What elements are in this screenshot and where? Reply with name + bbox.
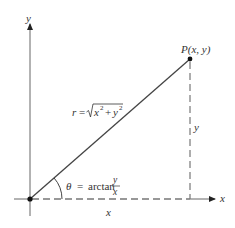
radius-formula: r = x 2 + y 2 bbox=[72, 104, 123, 118]
radius-line bbox=[30, 59, 190, 199]
angle-arc bbox=[54, 178, 62, 199]
radicand-x: x bbox=[93, 106, 99, 118]
radicand-y-exp: 2 bbox=[119, 104, 123, 112]
radicand-y: y bbox=[112, 106, 118, 118]
radius-lhs: r bbox=[72, 106, 77, 118]
vertical-leg-label: y bbox=[193, 121, 199, 133]
horizontal-leg-label: x bbox=[105, 206, 111, 218]
polar-coordinate-diagram: y x P(x, y) y x r = x 2 + y 2 θ = arctan… bbox=[0, 0, 235, 228]
angle-eq: = bbox=[77, 180, 83, 192]
arctan-func: arctan bbox=[88, 180, 115, 192]
radicand-plus: + bbox=[105, 106, 111, 118]
point-p-label: P(x, y) bbox=[180, 43, 211, 56]
fraction-numerator: y bbox=[112, 175, 118, 185]
theta-symbol: θ bbox=[66, 180, 72, 192]
fraction-denominator: x bbox=[112, 187, 118, 197]
radicand-x-exp: 2 bbox=[100, 104, 104, 112]
angle-formula: θ = arctan y x bbox=[66, 175, 120, 197]
point-p bbox=[188, 57, 193, 62]
radius-eq: = bbox=[79, 106, 85, 118]
origin-point bbox=[27, 196, 32, 201]
y-axis-label: y bbox=[25, 12, 31, 24]
x-axis-label: x bbox=[219, 192, 225, 204]
